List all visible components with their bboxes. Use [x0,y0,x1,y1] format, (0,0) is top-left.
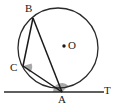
circle-outline [18,8,98,88]
point-label-A: A [58,94,66,105]
point-label-O: O [68,40,76,51]
geometry-canvas [0,0,114,109]
center-dot-icon [62,44,65,47]
point-label-T: T [104,85,111,96]
segment-BA [33,18,62,92]
point-label-B: B [25,3,32,14]
point-label-C: C [10,62,17,73]
geometry-figure: B C A O T [0,0,114,109]
